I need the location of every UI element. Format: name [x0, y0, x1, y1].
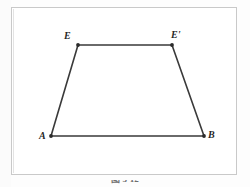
vertex-label-E: E — [64, 31, 71, 41]
edge-E-prime-B — [172, 45, 204, 136]
figure-page: E E' A B 图 3-12 — [0, 0, 250, 187]
vertex-label-E-prime: E' — [171, 30, 180, 40]
vertex-dot-A — [49, 134, 53, 138]
trapezoid-vertex-dots — [49, 43, 206, 138]
vertex-dot-B — [202, 134, 206, 138]
figure-caption-clip: 图 3-12 — [0, 180, 250, 187]
edge-A-E — [51, 45, 78, 136]
vertex-label-B: B — [208, 130, 215, 140]
figure-caption: 图 3-12 — [0, 180, 250, 184]
trapezoid-edges — [51, 45, 204, 136]
vertex-label-A: A — [39, 131, 46, 141]
trapezoid-diagram — [0, 0, 250, 187]
vertex-dot-E-prime — [170, 43, 174, 47]
vertex-dot-E — [76, 43, 80, 47]
